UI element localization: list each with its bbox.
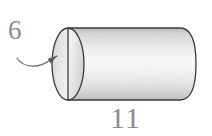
cylinder-figure: 6 11 [0, 0, 212, 136]
cylinder-body [68, 28, 196, 100]
length-label: 11 [110, 103, 141, 133]
cylinder-drawing [0, 0, 212, 136]
leader-arrow [17, 56, 57, 66]
radius-label: 6 [8, 17, 22, 44]
